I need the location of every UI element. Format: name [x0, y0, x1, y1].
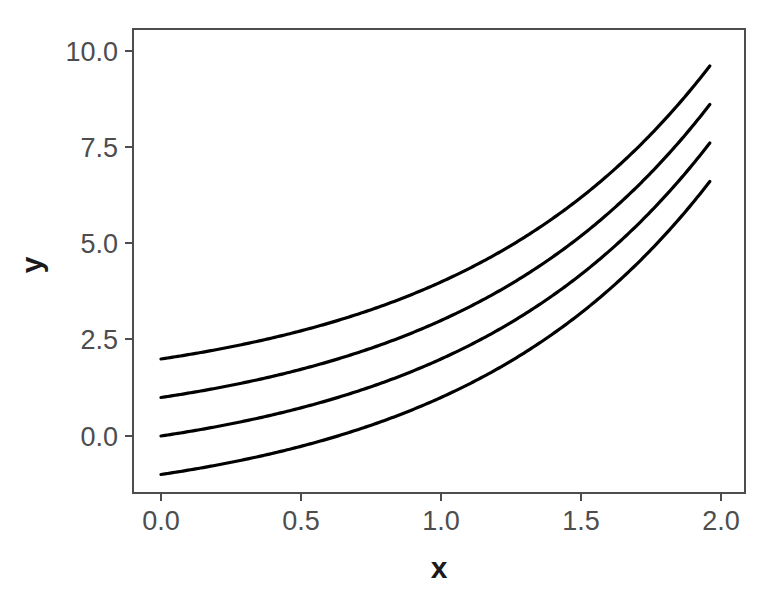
y-axis-ticks [125, 51, 133, 436]
x-axis-title: x [431, 551, 448, 584]
y-tick-label-0: 0.0 [80, 422, 118, 452]
y-axis-title: y [15, 256, 48, 273]
panel-background [133, 29, 745, 493]
y-tick-label-2p5: 2.5 [80, 325, 118, 355]
x-tick-label-1: 1.0 [422, 506, 460, 536]
x-axis-ticks [161, 493, 721, 501]
y-tick-label-10: 10.0 [65, 37, 118, 67]
chart-figure: 10.0 7.5 5.0 2.5 0.0 0.0 0.5 1.0 1.5 2.0… [0, 0, 771, 593]
plot-area: 10.0 7.5 5.0 2.5 0.0 0.0 0.5 1.0 1.5 2.0… [0, 0, 771, 593]
x-axis-tick-labels: 0.0 0.5 1.0 1.5 2.0 [142, 506, 740, 536]
y-tick-label-5: 5.0 [80, 229, 118, 259]
y-tick-label-7p5: 7.5 [80, 133, 118, 163]
x-tick-label-2: 2.0 [702, 506, 740, 536]
y-axis-tick-labels: 10.0 7.5 5.0 2.5 0.0 [65, 37, 118, 452]
x-tick-label-1p5: 1.5 [562, 506, 600, 536]
x-tick-label-0: 0.0 [142, 506, 180, 536]
x-tick-label-0p5: 0.5 [282, 506, 320, 536]
